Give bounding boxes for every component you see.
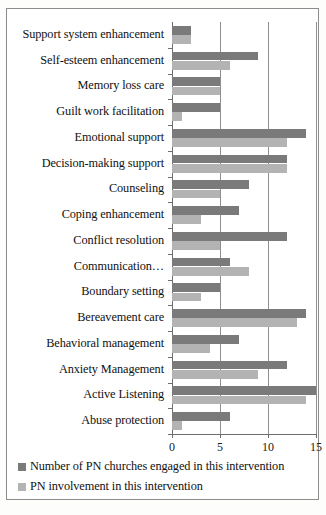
y-tick <box>168 254 172 255</box>
bar-series-1 <box>172 206 239 215</box>
bar-series-2 <box>172 293 201 302</box>
bar-series-2 <box>172 370 258 379</box>
y-tick <box>168 305 172 306</box>
y-tick <box>168 408 172 409</box>
y-tick <box>168 228 172 229</box>
y-tick <box>168 177 172 178</box>
x-tick-label-15: 15 <box>310 440 322 455</box>
bar-series-1 <box>172 335 239 344</box>
bar-series-2 <box>172 344 210 353</box>
chart-figure: Support system enhancementSelf-esteem en… <box>0 0 326 515</box>
bar-series-1 <box>172 361 287 370</box>
y-tick <box>168 74 172 75</box>
bar-series-1 <box>172 129 306 138</box>
category-label: Anxiety Management <box>0 362 164 377</box>
bar-series-1 <box>172 26 191 35</box>
bar-series-2 <box>172 164 287 173</box>
category-label: Self-esteem enhancement <box>0 53 164 68</box>
x-axis-line <box>172 434 317 435</box>
bar-series-2 <box>172 396 306 405</box>
bar-series-2 <box>172 421 182 430</box>
category-label: Counseling <box>0 181 164 196</box>
bar-series-1 <box>172 52 258 61</box>
bar-series-2 <box>172 267 249 276</box>
bar-series-1 <box>172 180 249 189</box>
x-tick-15 <box>316 434 317 438</box>
bar-series-2 <box>172 190 220 199</box>
x-tick-label-0: 0 <box>169 440 175 455</box>
category-label: Bereavement care <box>0 310 164 325</box>
y-tick <box>168 48 172 49</box>
bar-series-2 <box>172 241 220 250</box>
y-tick <box>168 125 172 126</box>
bar-series-1 <box>172 232 287 241</box>
legend-label-series-1: Number of PN churches engaged in this in… <box>30 459 284 474</box>
bar-series-1 <box>172 103 220 112</box>
x-tick-label-5: 5 <box>217 440 223 455</box>
x-tick-0 <box>172 434 173 438</box>
bar-series-2 <box>172 318 297 327</box>
y-tick <box>168 151 172 152</box>
bar-series-1 <box>172 258 230 267</box>
bar-series-1 <box>172 412 230 421</box>
bar-series-2 <box>172 112 182 121</box>
legend-item: Number of PN churches engaged in this in… <box>18 458 308 475</box>
plot-area: 051015 <box>172 22 316 434</box>
category-label: Behavioral management <box>0 336 164 351</box>
y-tick <box>168 99 172 100</box>
bar-series-2 <box>172 87 220 96</box>
gridline-15 <box>316 22 317 434</box>
category-label: Communication… <box>0 259 164 274</box>
chart-legend: Number of PN churches engaged in this in… <box>18 458 308 498</box>
category-label: Active Listening <box>0 387 164 402</box>
x-tick-5 <box>220 434 221 438</box>
category-label: Coping enhancement <box>0 207 164 222</box>
bar-series-2 <box>172 35 191 44</box>
bar-series-1 <box>172 77 220 86</box>
bar-series-2 <box>172 215 201 224</box>
x-tick-10 <box>268 434 269 438</box>
category-label: Boundary setting <box>0 284 164 299</box>
y-tick <box>168 331 172 332</box>
category-label: Support system enhancement <box>0 27 164 42</box>
bar-series-2 <box>172 61 230 70</box>
y-tick <box>168 202 172 203</box>
gridline-10 <box>268 22 269 434</box>
bar-series-1 <box>172 309 306 318</box>
legend-swatch-series-2 <box>18 483 26 491</box>
y-tick <box>168 357 172 358</box>
x-tick-label-10: 10 <box>262 440 274 455</box>
y-tick <box>168 383 172 384</box>
category-label: Decision-making support <box>0 156 164 171</box>
legend-swatch-series-1 <box>18 463 26 471</box>
category-label: Emotional support <box>0 130 164 145</box>
bar-series-2 <box>172 138 287 147</box>
bar-series-1 <box>172 386 316 395</box>
legend-label-series-2: PN involvement in this intervention <box>30 479 203 494</box>
legend-item: PN involvement in this intervention <box>18 478 308 495</box>
y-tick <box>168 280 172 281</box>
category-label: Memory loss care <box>0 78 164 93</box>
category-label: Conflict resolution <box>0 233 164 248</box>
bar-series-1 <box>172 155 287 164</box>
category-label: Abuse protection <box>0 413 164 428</box>
category-label: Guilt work facilitation <box>0 104 164 119</box>
bar-series-1 <box>172 283 220 292</box>
